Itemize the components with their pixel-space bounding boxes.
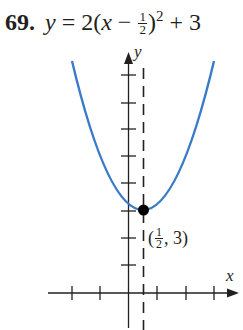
y-axis-label: y: [134, 42, 142, 62]
x-axis-arrow-icon: [227, 289, 239, 298]
vertex-fraction: 12: [155, 227, 163, 250]
x-axis-label: x: [226, 266, 234, 286]
x-axis: [48, 286, 232, 300]
graph: [0, 0, 243, 330]
y-axis: [121, 60, 136, 328]
y-axis-arrow-icon: [124, 52, 133, 64]
parabola-curve: [72, 61, 214, 210]
vertex-point: [138, 205, 149, 216]
vertex-label: (12, 3): [148, 228, 188, 251]
